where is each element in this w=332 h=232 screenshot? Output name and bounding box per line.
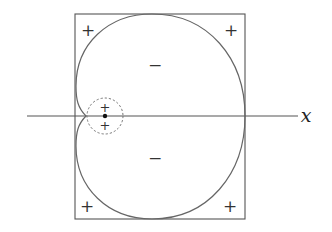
diagram-canvas: + + + + − − + + x <box>0 0 332 232</box>
circle-sign-upper: + <box>100 100 111 115</box>
corner-sign-bottom-right: + <box>223 196 237 216</box>
corner-sign-bottom-left: + <box>80 196 94 216</box>
corner-sign-top-left: + <box>81 20 95 40</box>
inside-sign-upper: − <box>148 55 162 75</box>
corner-sign-top-right: + <box>224 20 238 40</box>
inside-sign-lower: − <box>148 148 162 168</box>
x-axis-label: x <box>301 104 312 126</box>
circle-sign-lower: + <box>100 118 111 133</box>
